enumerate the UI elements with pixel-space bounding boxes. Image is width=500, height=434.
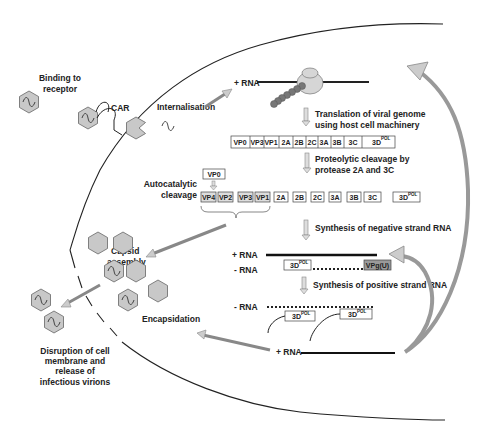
- recycle-arrow-small: [402, 256, 432, 350]
- translation-label-1: Translation of viral genome: [315, 109, 426, 119]
- released-virion: [32, 289, 51, 311]
- svg-text:VP1: VP1: [264, 139, 277, 146]
- vp0-box: VP0: [207, 171, 220, 178]
- encapsidation-label: Encapsidation: [142, 314, 200, 324]
- replication-cycle-diagram: CAR Binding to receptor Internalisation …: [0, 0, 500, 434]
- plus-rna-bottom-label: + RNA: [276, 347, 302, 357]
- svg-text:POL: POL: [357, 309, 367, 314]
- svg-text:POL: POL: [408, 192, 418, 197]
- car-label: CAR: [111, 103, 129, 113]
- down-arrow-proteolytic: [303, 153, 311, 173]
- plus-rna-top-label: + RNA: [234, 78, 260, 88]
- proteolytic-label-2: protease 2A and 3C: [315, 165, 394, 175]
- svg-text:3B: 3B: [333, 139, 342, 146]
- svg-text:2A: 2A: [277, 194, 286, 201]
- svg-text:3A: 3A: [320, 139, 329, 146]
- svg-text:2C: 2C: [313, 194, 322, 201]
- svg-text:2A: 2A: [282, 139, 291, 146]
- capsid-assembly-arrow: [146, 225, 226, 257]
- pol-sup: POL: [381, 136, 391, 141]
- binding-label-1: Binding to: [39, 73, 81, 83]
- svg-text:3C: 3C: [349, 139, 358, 146]
- svg-text:VP3: VP3: [239, 194, 252, 201]
- disruption-label-4: infectious virions: [40, 377, 111, 387]
- svg-text:3D: 3D: [399, 194, 408, 201]
- svg-text:3B: 3B: [350, 194, 359, 201]
- down-arrow-translation: [302, 108, 310, 126]
- neg-synthesis-label: Synthesis of negative strand RNA: [315, 223, 452, 233]
- disruption-label-2: membrane and: [45, 356, 105, 366]
- svg-text:2C: 2C: [308, 139, 317, 146]
- svg-text:POL: POL: [299, 260, 309, 265]
- vpg-label: VPg(U): [366, 262, 389, 270]
- plus-rna-mid-label: + RNA: [232, 250, 258, 260]
- virion-bound: [79, 107, 98, 129]
- nascent-rna-1: [268, 316, 285, 333]
- minus-rna-mid-label: - RNA: [234, 265, 258, 275]
- autocatalytic-label-1: Autocatalytic: [144, 179, 198, 189]
- proteolytic-label-1: Proteolytic cleavage by: [315, 154, 410, 164]
- release-arrow: [61, 285, 100, 307]
- disruption-label-3: release of: [55, 366, 95, 376]
- down-arrow-vp0: [210, 181, 217, 190]
- polymerase-label: 3D: [290, 262, 299, 269]
- empty-capsid: [149, 280, 168, 302]
- empty-capsid: [89, 232, 108, 254]
- svg-text:3D: 3D: [292, 313, 301, 320]
- svg-text:VP4: VP4: [202, 194, 215, 201]
- svg-text:2B: 2B: [295, 194, 304, 201]
- svg-text:3D: 3D: [372, 139, 381, 146]
- svg-text:VP3: VP3: [250, 139, 263, 146]
- translation-label-2: using host cell machinery: [315, 120, 420, 130]
- virion-uncoating: [127, 117, 146, 139]
- svg-text:VP1: VP1: [256, 194, 269, 201]
- svg-text:2B: 2B: [295, 139, 304, 146]
- svg-text:3A: 3A: [331, 194, 340, 201]
- capsid-brace: [201, 206, 270, 218]
- svg-text:3C: 3C: [368, 194, 377, 201]
- minus-rna-low-label: - RNA: [234, 302, 258, 312]
- svg-text:3D: 3D: [348, 311, 357, 318]
- nascent-polypeptide: [271, 83, 306, 108]
- cleaved-proteins: [201, 192, 420, 202]
- svg-text:VP2: VP2: [219, 194, 232, 201]
- autocatalytic-label-2: cleavage: [161, 190, 197, 200]
- svg-text:POL: POL: [301, 311, 311, 316]
- internalisation-arrow: [205, 89, 232, 107]
- down-arrow-positive: [300, 277, 308, 294]
- binding-label-2: receptor: [43, 84, 78, 94]
- released-virion: [45, 311, 64, 333]
- pos-synthesis-label: Synthesis of positive strand RNA: [313, 280, 447, 290]
- ribosome-icon: [297, 68, 323, 94]
- disruption-label-1: Disruption of cell: [40, 346, 109, 356]
- filled-capsid: [119, 289, 138, 311]
- encapsidation-arrow: [197, 330, 270, 350]
- svg-text:VP0: VP0: [233, 139, 246, 146]
- down-arrow-negative: [302, 220, 310, 240]
- virion-free: [20, 91, 39, 113]
- released-rna: [162, 122, 174, 131]
